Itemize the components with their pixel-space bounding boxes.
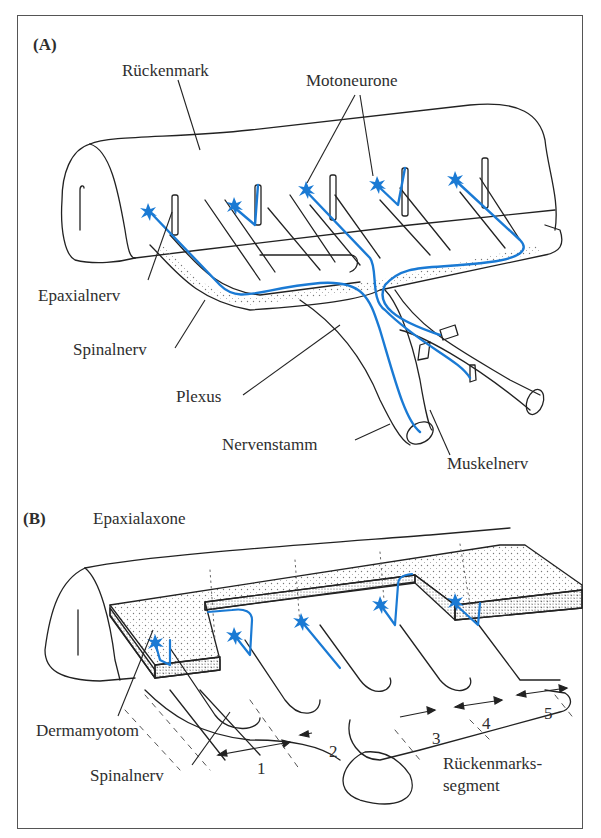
- segment-number-2: 2: [329, 743, 338, 760]
- segment-arrows: [218, 685, 567, 756]
- label-epaxialaxone: Epaxialaxone: [93, 510, 186, 527]
- panel-a-drawing: [62, 104, 562, 449]
- panel-b-tag: (B): [23, 510, 46, 527]
- diagram-artwork: [0, 0, 601, 838]
- label-plexus: Plexus: [176, 388, 221, 405]
- label-rueckenmark: Rückenmark: [122, 62, 209, 79]
- label-dermamyotom: Dermamyotom: [36, 722, 139, 739]
- label-motoneurone: Motoneurone: [306, 72, 398, 89]
- segment-number-3: 3: [432, 730, 441, 747]
- segment-number-4: 4: [482, 715, 491, 732]
- label-epaxialnerv: Epaxialnerv: [38, 287, 120, 304]
- label-segment-line2: segment: [443, 777, 500, 794]
- label-segment-line1: Rückenmarks-: [443, 755, 542, 772]
- label-nervenstamm: Nervenstamm: [222, 436, 317, 453]
- label-spinalnerv-a: Spinalnerv: [73, 341, 147, 358]
- segment-number-1: 1: [257, 760, 266, 777]
- label-spinalnerv-b: Spinalnerv: [90, 767, 164, 784]
- panel-a-tag: (A): [33, 36, 57, 53]
- segment-number-5: 5: [544, 705, 553, 722]
- label-muskelnerv: Muskelnerv: [447, 455, 528, 472]
